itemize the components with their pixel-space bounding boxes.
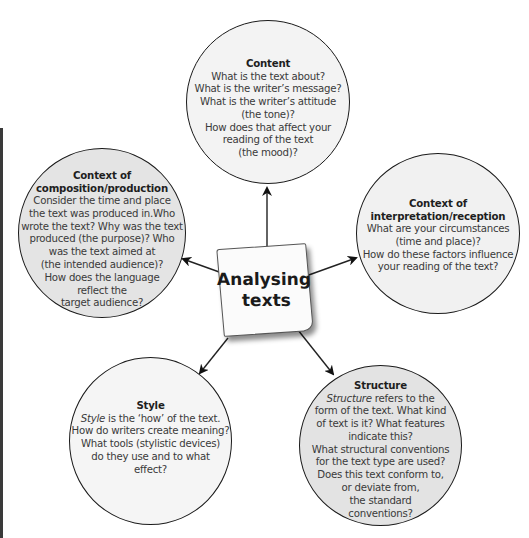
text-line: Does this text conform to, (312, 469, 450, 482)
text-line: for the text type are used? (312, 456, 450, 469)
text-line: How does that affect your (195, 122, 342, 135)
text-line: How does the language (21, 272, 183, 285)
text-line: What structural conventions (312, 444, 450, 457)
text-line: What are your circumstances (363, 223, 514, 236)
text-line: Consider the time and place (21, 195, 183, 208)
node-composition-title: Context of composition/production (36, 170, 168, 195)
arrow-to-style (200, 338, 228, 373)
text-line: your reading of the text? (363, 261, 514, 274)
node-interpretation-body: What are your circumstances (time and pl… (363, 223, 514, 274)
title-line: composition/production (36, 183, 168, 196)
center-note-line2: texts (241, 290, 290, 311)
text-line: How do these factors influence (363, 249, 514, 262)
text-line: produced (the purpose)? Who (21, 233, 183, 246)
arrow-to-interpretation (306, 258, 356, 276)
node-style-title: Style (136, 400, 164, 413)
text-line: reflect the (21, 285, 183, 298)
arrow-to-structure (298, 330, 333, 374)
text-line: How do writers create meaning? (72, 425, 230, 438)
node-structure-body: Structure refers to the form of the text… (312, 393, 450, 521)
text-line: target audience? (21, 297, 183, 310)
text-line: (time and place)? (363, 236, 514, 249)
text-line: What is the text about? (195, 71, 342, 84)
text-line: form of the text. What kind (312, 405, 450, 418)
title-line: Context of (36, 170, 168, 183)
title-line: interpretation/reception (371, 211, 506, 224)
text-line: conventions? (312, 508, 450, 521)
text-line: What tools (stylistic devices) (72, 438, 230, 451)
text-line: What is the writer’s attitude (195, 96, 342, 109)
italic-term: Structure (326, 393, 371, 404)
node-interpretation-title: Context of interpretation/reception (371, 198, 506, 223)
text-line: was the text aimed at (21, 246, 183, 259)
text-line: the text was produced in.Who (21, 208, 183, 221)
title-line: Context of (371, 198, 506, 211)
node-structure-title: Structure (354, 380, 407, 393)
text-line: What is the writer’s message? (195, 83, 342, 96)
node-interpretation: Context of interpretation/reception What… (356, 153, 520, 314)
text-line: of text is it? What features (312, 418, 450, 431)
text-line: the standard (312, 495, 450, 508)
node-composition-body: Consider the time and place the text was… (21, 195, 183, 310)
text-line: effect? (72, 464, 230, 477)
text-line: indicate this? (312, 431, 450, 444)
text-line: (the mood)? (195, 147, 342, 160)
text-line: (the intended audience)? (21, 259, 183, 272)
node-content-title: Content (246, 58, 290, 71)
text-line: reading of the text (195, 134, 342, 147)
text-line: do they use and to what (72, 451, 230, 464)
text-fragment: is the ‘how’ of the text. (105, 413, 220, 424)
node-style: Style Style is the ‘how’ of the text. Ho… (69, 357, 232, 525)
center-note: Analysing texts (216, 243, 313, 337)
node-content-body: What is the text about? What is the writ… (195, 71, 342, 161)
text-line: (the tone)? (195, 109, 342, 122)
node-composition: Context of composition/production Consid… (18, 148, 186, 318)
node-content: Content What is the text about? What is … (186, 20, 350, 184)
center-note-line1: Analysing (217, 269, 311, 290)
text-fragment: refers to the (372, 393, 435, 404)
node-structure: Structure Structure refers to the form o… (299, 365, 462, 526)
italic-term: Style (81, 413, 105, 424)
text-line: Style is the ‘how’ of the text. (72, 413, 230, 426)
text-line: wrote the text? Why was the text (21, 221, 183, 234)
text-line: Structure refers to the (312, 393, 450, 406)
node-style-body: Style is the ‘how’ of the text. How do w… (72, 413, 230, 477)
text-line: or deviate from, (312, 482, 450, 495)
